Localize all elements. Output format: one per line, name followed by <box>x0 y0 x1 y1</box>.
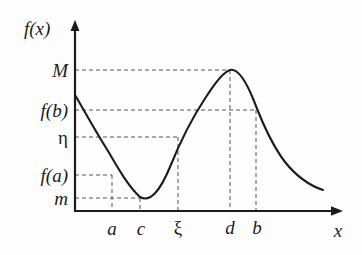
x-axis-title: x <box>334 221 342 240</box>
y-axis-title: f(x) <box>24 19 50 38</box>
y-tick-label-eta: η <box>20 128 68 147</box>
y-axis-arrowhead <box>71 20 80 31</box>
y-tick-label-f-of-a: f(a) <box>12 166 68 185</box>
function-curve <box>75 70 323 199</box>
x-axis-arrowhead <box>331 206 343 215</box>
y-tick-label-m: m <box>20 189 68 208</box>
x-tick-label-a: a <box>107 219 117 238</box>
y-tick-label-M: M <box>20 61 68 80</box>
x-tick-label-d: d <box>225 218 235 237</box>
axes-group <box>71 20 344 216</box>
x-tick-label-b: b <box>252 218 262 237</box>
y-tick-label-f-of-b: f(b) <box>12 101 68 120</box>
x-tick-label-c: c <box>137 219 145 238</box>
function-graph-figure: f(x) M f(b) η f(a) m a c ξ d b x <box>0 0 362 255</box>
x-tick-label-xi: ξ <box>174 218 182 237</box>
